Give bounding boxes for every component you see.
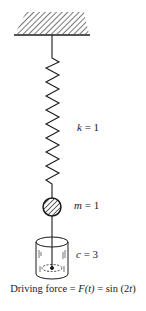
spring-constant-label: k = 1 xyxy=(77,121,99,133)
caption-mid: = sin (2 xyxy=(95,283,130,294)
spring-mass-damper-diagram xyxy=(0,0,146,311)
driving-force-caption: Driving force = F(t) = sin (2t) xyxy=(0,283,146,294)
spring-eq: = xyxy=(82,121,94,133)
mass-val: 1 xyxy=(94,199,100,211)
damping-label: c = 3 xyxy=(76,248,98,260)
caption-prefix: Driving force = xyxy=(10,283,78,294)
mass xyxy=(43,198,61,216)
spring-val: 1 xyxy=(94,121,100,133)
ceiling-support xyxy=(14,12,90,35)
damper-val: 3 xyxy=(93,248,99,260)
damper-eq: = xyxy=(81,248,93,260)
caption-func: F(t) xyxy=(78,283,94,294)
mass-label: m = 1 xyxy=(74,199,99,211)
spring xyxy=(46,35,59,198)
caption-suffix: ) xyxy=(132,283,136,294)
mass-var: m xyxy=(74,199,82,211)
mass-eq: = xyxy=(82,199,94,211)
